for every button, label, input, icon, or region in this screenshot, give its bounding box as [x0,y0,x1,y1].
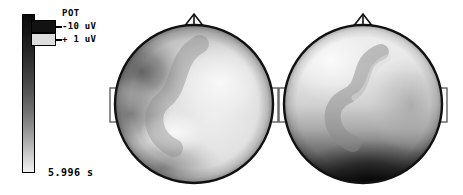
colorbar-label-low: + 1 uV [62,34,96,44]
topomap-left [108,8,280,190]
topomap-right [277,8,449,190]
colorbar-panel: POT -10 uV + 1 uV 5.996 s [0,0,112,195]
colorbar-tick-high [55,26,62,28]
colorbar-tick-low [55,39,62,41]
scalp-field [108,25,273,190]
colorbar-label-high: -10 uV [62,21,96,31]
colorbar-swatch-high [31,20,56,33]
figure-canvas: POT -10 uV + 1 uV 5.996 s [0,0,463,195]
colorbar-title: POT [62,8,80,18]
scalp-field [279,18,449,190]
time-label: 5.996 s [48,167,94,178]
colorbar-swatch-low [31,33,56,46]
